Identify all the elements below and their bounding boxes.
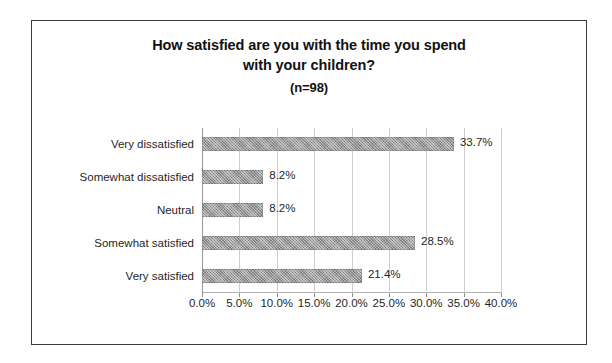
bar-value-label: 28.5% bbox=[421, 235, 454, 247]
category-label-somewhat-dissatisfied: Somewhat dissatisfied bbox=[34, 171, 194, 183]
bar-row: 8.2% bbox=[202, 161, 501, 194]
chart-sample-size: (n=98) bbox=[32, 78, 586, 98]
bar-row: 8.2% bbox=[202, 194, 501, 227]
bar-row: 28.5% bbox=[202, 227, 501, 260]
category-label-very-satisfied: Very satisfied bbox=[34, 270, 194, 282]
x-tick-label-5.0%: 5.0% bbox=[226, 297, 252, 309]
chart-frame: How satisfied are you with the time you … bbox=[31, 20, 587, 345]
category-axis-labels: Very dissatisfiedSomewhat dissatisfiedNe… bbox=[40, 128, 194, 293]
bar-value-label: 33.7% bbox=[460, 136, 493, 148]
plot-area: 33.7%8.2%8.2%28.5%21.4% bbox=[202, 128, 501, 293]
chart-title: How satisfied are you with the time you … bbox=[32, 35, 586, 98]
bar-value-label: 8.2% bbox=[269, 202, 295, 214]
bar-very-dissatisfied bbox=[202, 137, 454, 151]
x-tick-label-15.0%: 15.0% bbox=[298, 297, 331, 309]
x-axis-tick-labels: 0.0%5.0%10.0%15.0%20.0%25.0%30.0%35.0%40… bbox=[202, 297, 501, 313]
x-tick-label-35.0%: 35.0% bbox=[447, 297, 480, 309]
x-tick-label-0.0%: 0.0% bbox=[189, 297, 215, 309]
gridline-40.0% bbox=[501, 128, 502, 293]
bar-somewhat-satisfied bbox=[202, 236, 415, 250]
category-label-very-dissatisfied: Very dissatisfied bbox=[34, 138, 194, 150]
x-tick-label-30.0%: 30.0% bbox=[410, 297, 443, 309]
bar-value-label: 8.2% bbox=[269, 169, 295, 181]
x-tick-label-40.0%: 40.0% bbox=[485, 297, 518, 309]
chart-title-line-2: with your children? bbox=[32, 55, 586, 75]
category-label-somewhat-satisfied: Somewhat satisfied bbox=[34, 237, 194, 249]
x-tick-label-20.0%: 20.0% bbox=[335, 297, 368, 309]
bar-very-satisfied bbox=[202, 269, 362, 283]
bar-row: 21.4% bbox=[202, 260, 501, 293]
x-tick-label-25.0%: 25.0% bbox=[373, 297, 406, 309]
category-label-neutral: Neutral bbox=[34, 204, 194, 216]
chart-title-line-1: How satisfied are you with the time you … bbox=[32, 35, 586, 55]
bar-value-label: 21.4% bbox=[368, 268, 401, 280]
bar-neutral bbox=[202, 203, 263, 217]
bar-row: 33.7% bbox=[202, 128, 501, 161]
bar-somewhat-dissatisfied bbox=[202, 170, 263, 184]
x-tick-label-10.0%: 10.0% bbox=[260, 297, 293, 309]
